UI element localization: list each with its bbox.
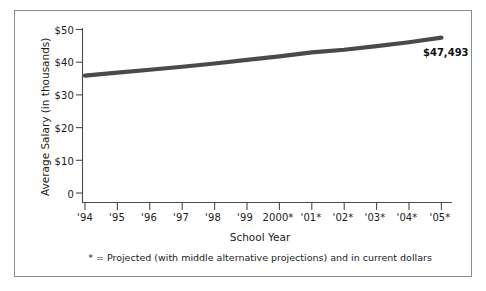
x-tick-label-94: '94 bbox=[77, 212, 93, 223]
y-tick-label-0: 0 bbox=[48, 189, 74, 200]
y-tick-label-30: $30 bbox=[48, 90, 74, 101]
x-axis-title: School Year bbox=[230, 231, 290, 243]
x-tick-label-2000: 2000* bbox=[263, 212, 294, 223]
x-tick-label-05: '05* bbox=[430, 212, 451, 223]
chart-figure: Average Salary (in thousands) $50 $40 $3… bbox=[0, 0, 486, 291]
y-tick-label-50: $50 bbox=[48, 25, 74, 36]
y-tick-label-10: $10 bbox=[48, 156, 74, 167]
chart-footnote: * = Projected (with middle alternative p… bbox=[88, 252, 432, 263]
x-tick-label-02: '02* bbox=[333, 212, 354, 223]
x-tick-label-95: '95 bbox=[109, 212, 125, 223]
y-tick-label-40: $40 bbox=[48, 57, 74, 68]
endpoint-value-label: $47,493 bbox=[423, 47, 469, 58]
x-tick-label-98: '98 bbox=[205, 212, 221, 223]
x-tick-label-03: '03* bbox=[365, 212, 386, 223]
x-tick-label-97: '97 bbox=[173, 212, 189, 223]
x-tick-label-01: '01* bbox=[301, 212, 322, 223]
x-tick-label-04: '04* bbox=[397, 212, 418, 223]
x-tick-label-99: '99 bbox=[237, 212, 253, 223]
y-tick-label-20: $20 bbox=[48, 123, 74, 134]
x-tick-label-96: '96 bbox=[141, 212, 157, 223]
